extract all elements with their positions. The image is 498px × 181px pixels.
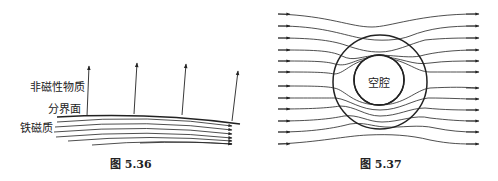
fig-5-37-drawing — [250, 0, 498, 181]
ferromagnetic-field-lines — [54, 119, 232, 145]
incoming-arrows — [278, 14, 290, 144]
label-ferromagnetic: 铁磁质 — [20, 119, 53, 135]
label-nonmagnetic-material: 非磁性物质 — [30, 78, 85, 94]
figure-5-37: 空腔 图 5.37 — [250, 0, 498, 181]
nonmagnetic-field-arrows — [87, 63, 238, 121]
figure-caption: 图 5.37 — [360, 155, 402, 171]
label-cavity: 空腔 — [368, 74, 390, 90]
outgoing-arrows — [466, 14, 479, 144]
label-interface: 分界面 — [48, 100, 81, 116]
figure-caption: 图 5.36 — [110, 155, 152, 171]
figure-5-36: 非磁性物质 分界面 铁磁质 图 5.36 — [0, 0, 250, 181]
